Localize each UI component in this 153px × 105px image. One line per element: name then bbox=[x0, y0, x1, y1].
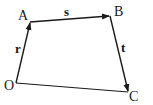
vector-diagram: A B O C s r t bbox=[0, 0, 153, 105]
vector-label-s: s bbox=[64, 4, 69, 19]
segment-oc-line bbox=[16, 83, 128, 92]
point-label-a: A bbox=[18, 8, 29, 23]
point-label-o: O bbox=[4, 78, 14, 93]
point-label-c: C bbox=[129, 89, 138, 104]
vector-label-t: t bbox=[121, 40, 126, 55]
vector-s-line bbox=[30, 16, 109, 22]
point-label-b: B bbox=[114, 4, 123, 19]
vector-label-r: r bbox=[15, 41, 21, 56]
